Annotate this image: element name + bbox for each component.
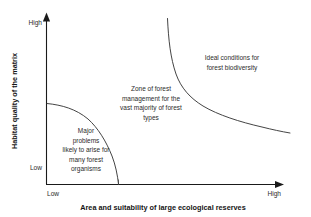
major-problems-line-4: many forest xyxy=(69,156,103,164)
zone-management-line-1: Zone of forest xyxy=(131,85,171,92)
ideal-conditions-line-1: Ideal conditions for xyxy=(205,54,260,61)
major-problems-line-5: organisms xyxy=(71,165,102,173)
y-axis-title: Habitat quality of the matrix xyxy=(10,53,19,149)
upper-threshold-curve xyxy=(168,19,291,134)
figure-container: High Low Habitat quality of the matrix L… xyxy=(0,0,311,217)
y-axis-low-label: Low xyxy=(30,164,42,171)
major-problems-line-1: Major xyxy=(78,127,95,135)
annotation-zone-management: Zone of forest management for the vast m… xyxy=(120,85,182,122)
x-axis-arrow-icon xyxy=(275,181,284,188)
zone-management-line-4: types xyxy=(143,114,159,122)
annotation-ideal-conditions: Ideal conditions for forest biodiversity xyxy=(205,54,260,72)
y-axis-high-label: High xyxy=(28,19,42,27)
major-problems-line-3: likely to arise for xyxy=(63,146,111,154)
annotation-major-problems: Major problems likely to arise for many … xyxy=(63,127,111,173)
ideal-conditions-line-2: forest biodiversity xyxy=(207,64,258,72)
x-axis-low-label: Low xyxy=(47,190,59,197)
x-axis-title: Area and suitability of large ecological… xyxy=(80,203,245,212)
conceptual-line-chart: High Low Habitat quality of the matrix L… xyxy=(0,0,311,217)
y-axis-arrow-icon xyxy=(43,13,50,22)
zone-management-line-2: management for the xyxy=(122,95,181,103)
x-axis-high-label: High xyxy=(267,190,281,198)
major-problems-line-2: problems xyxy=(73,137,100,145)
zone-management-line-3: vast majority of forest xyxy=(120,104,182,112)
